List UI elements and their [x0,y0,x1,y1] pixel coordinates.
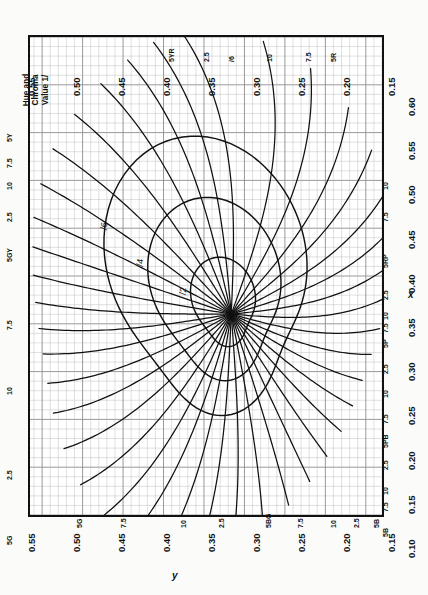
hue-label-top-1: 2.5 [203,52,210,62]
hue-locus-2.5BG [180,314,232,515]
hue-label-bottom-3: 2.5 [218,518,225,528]
hue-label-left-4: 5GY [6,248,13,262]
hue-label-right-8: 5P [382,339,389,348]
y-tick-bottom-0.45: 0.45 [116,534,127,553]
hue-label-left-2: 10 [6,182,13,190]
hue-label-bottom-5: 7.5 [297,518,304,528]
y-tick-bottom-0.40: 0.40 [161,534,172,553]
hue-locus-5GY [43,314,231,354]
x-tick-0.20: 0.20 [406,451,417,470]
hue-label-right-0: 5B [382,528,389,537]
hue-label-bottom-6: 10 [330,520,337,528]
chromaticity-diagram-svg: /6/4/2 [30,37,382,515]
x-tick-0.55: 0.55 [406,142,417,161]
chroma-label-c4: /4 [135,259,145,268]
hue-label-left-1: 7.5 [6,158,13,168]
hue-label-bottom-8: 5B [373,519,380,528]
y-tick-bottom-0.50: 0.50 [71,534,82,553]
y-tick-bottom-0.25: 0.25 [296,534,307,553]
hue-locus-7.5YR [53,149,231,314]
x-tick-0.30: 0.30 [406,363,417,382]
hue-label-left-8: 5G [6,536,13,545]
hue-label-right-6: 10 [382,390,389,398]
hue-label-right-3: 2.5 [382,460,389,470]
hue-label-right-4: 5PB [382,434,389,448]
x-tick-0.10: 0.10 [406,540,417,559]
y-tick-top-0.35: 0.35 [206,78,217,97]
hue-label-right-1: 7.5 [382,502,389,512]
hue-label-right-14: 10 [382,182,389,190]
y-tick-top-0.20: 0.20 [341,78,352,97]
hue-label-right-2: 10 [382,487,389,495]
hue-locus-5YR [75,114,232,314]
y-tick-top-0.30: 0.30 [251,78,262,97]
plot-area: /6/4/2 [28,35,384,517]
hue-label-left-3: 2.5 [6,212,13,222]
hue-label-top-3: 10 [266,54,273,62]
rotated-plot-container: /6/4/2 [14,17,414,577]
y-tick-bottom-0.20: 0.20 [341,534,352,553]
hue-label-right-9: 7.5 [382,323,389,333]
hue-label-top-2: /6 [228,56,235,62]
hue-locus-7.5B [231,314,327,456]
hue-label-top-0: 5YR [168,48,175,62]
hue-label-right-7: 2.5 [382,364,389,374]
x-tick-0.35: 0.35 [406,319,417,338]
hue-label-right-12: 5RP [382,254,389,268]
hue-label-bottom-4: 5BG [265,514,272,528]
hue-label-bottom-7: 2.5 [353,518,360,528]
y-tick-top-0.15: 0.15 [386,78,397,97]
x-tick-0.25: 0.25 [406,407,417,426]
hue-label-bottom-1: 7.5 [120,518,127,528]
y-tick-top-0.40: 0.40 [161,78,172,97]
hue-label-right-11: 2.5 [382,290,389,300]
hue-label-left-0: 5Y [6,133,13,142]
chromaticity-chart-page: /6/4/2 0.550.500.450.400.350.300.250.200… [0,0,428,595]
x-tick-0.15: 0.15 [406,495,417,514]
hue-label-left-7: 2.5 [6,470,13,480]
hue-label-right-5: 7.5 [382,414,389,424]
y-axis-name: y [172,570,178,581]
hue-label-left-6: 10 [6,387,13,395]
y-tick-top-0.25: 0.25 [296,78,307,97]
hue-label-top-5: 5R [330,53,337,62]
chroma-label-c6: /6 [99,223,109,232]
x-tick-0.45: 0.45 [406,230,417,249]
y-tick-top-0.50: 0.50 [71,78,82,97]
hue-label-bottom-0: 5G [76,519,83,528]
plot-svg-wrapper: /6/4/2 [30,37,382,515]
chart-title: Hue and Chroma Value 1/ [22,62,50,118]
x-axis-name: x [408,289,414,300]
hue-label-right-10: 10 [382,312,389,320]
hue-label-bottom-2: 10 [180,520,187,528]
hue-label-top-4: 7.5 [305,52,312,62]
hue-locus-10B [231,314,341,431]
y-tick-bottom-0.30: 0.30 [251,534,262,553]
hue-label-right-13: 7.5 [382,212,389,222]
hue-label-left-5: 7.5 [6,320,13,330]
y-tick-bottom-0.55: 0.55 [26,534,37,553]
chroma-label-c2: /2 [178,288,188,297]
x-tick-0.50: 0.50 [406,186,417,205]
y-tick-top-0.45: 0.45 [116,78,127,97]
x-tick-0.60: 0.60 [406,98,417,117]
y-tick-bottom-0.35: 0.35 [206,534,217,553]
